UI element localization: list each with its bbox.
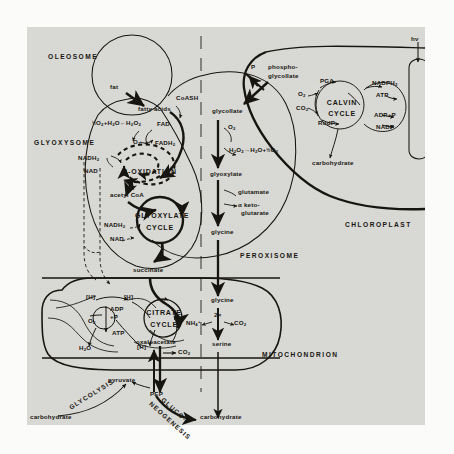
metabolite-coash: CoASH [176, 95, 198, 101]
metabolite-succinate: succinate [133, 267, 163, 273]
metabolite-reducing-equiv-1: [H] [86, 294, 95, 300]
metabolite-o2-peroxisome: O2 [228, 124, 236, 131]
arrow-o2-in-mito [90, 315, 102, 316]
metabolite-fad: FAD [157, 121, 170, 127]
metabolite-carbohydrate-chloroplast: carbohydrate [312, 160, 354, 166]
arrow-co2-out [224, 322, 234, 325]
reaction-catalase: H2O2→H2O+½O2 [229, 147, 278, 154]
metabolite-adp-p-chloroplast: ADP+P [374, 112, 396, 118]
organelle-label-mitochondrion: MITOCHONDRION [262, 352, 339, 359]
metabolite-glycollate: glycollate [212, 108, 243, 114]
metabolite-phosphoglycollate-1: phospho- [268, 64, 298, 70]
reaction-peroxide-breakdown: ½O2+H2O←H2O2 [92, 120, 141, 127]
metabolite-fat: fat [110, 84, 118, 90]
metabolite-atp-mito: ATP [112, 330, 125, 336]
metabolite-adp: ADP [110, 306, 124, 312]
metabolite-glycine-peroxisome: glycine [211, 229, 234, 235]
figure-canvas: OLEOSOME GLYOXYSOME PEROXISOME CHLOROPLA… [0, 0, 454, 454]
metabolite-nad-glyox: NAD [110, 236, 124, 242]
metabolite-nadh2-glyox: NADH2 [104, 222, 125, 229]
thylakoid-icon [409, 59, 451, 159]
glyoxysome-membrane [85, 108, 202, 268]
metabolite-nadh2-betaox: NADH2 [78, 155, 99, 162]
metabolite-carbohydrate-left: carbohydrate [30, 414, 72, 420]
metabolite-ketoglutarate-1: α keto- [238, 202, 260, 208]
metabolite-rudp: RudP [318, 120, 335, 126]
metabolite-reducing-equiv-2: [H] [124, 294, 133, 300]
organelle-label-glyoxysome: GLYOXYSOME [34, 140, 95, 147]
metabolite-o2-mito: O2 [88, 318, 96, 325]
arrow-phosphoglycollate-to-glycollate [244, 82, 268, 104]
arrow-nh4-out [202, 322, 212, 325]
organelle-label-oleosome: OLEOSOME [48, 54, 98, 61]
metabolite-nad-betaox: NAD [84, 168, 98, 174]
cycle-label-citrate-2: CYCLE [144, 321, 184, 328]
metabolite-o2-calvin: O2 [298, 91, 306, 98]
metabolite-fadh2: FADH2 [155, 140, 175, 147]
cycle-label-citrate-1: CITRATE [144, 309, 184, 316]
metabolite-phosphate-mito: +P [110, 314, 118, 320]
arrow-ketoglutarate-out [224, 204, 237, 206]
label-photon: hν [411, 36, 419, 42]
metabolite-serine: serine [212, 341, 231, 347]
metabolite-co2-glycine: CO2 [234, 320, 246, 327]
metabolite-o2-glyoxysome: O2 [133, 139, 141, 146]
metabolite-fatty-acids: fatty acids [138, 106, 171, 112]
metabolite-oxaloacetate: oxaloacetate [136, 339, 176, 345]
arrow-calvin-to-carbohydrate [330, 129, 338, 158]
metabolite-atp-chloroplast: ATP [376, 92, 389, 98]
metabolite-acetyl-coa: acetyl CoA [110, 192, 144, 198]
arrow-nadh-betaox [111, 156, 121, 163]
metabolite-pga: PGA [320, 78, 334, 84]
arrow-nad-betaox [107, 158, 113, 167]
metabolite-carbohydrate-bottom: carbohydrate [200, 414, 242, 420]
metabolite-glutamate: glutamate [238, 189, 269, 195]
beta-oxidation-spiral [118, 144, 174, 184]
cycle-label-glyoxylate-1: GLYOXYLATE [135, 212, 185, 219]
metabolite-ammonium: NH4+ [186, 320, 201, 327]
metabolite-pep: PEP [150, 391, 163, 397]
organelle-label-chloroplast: CHLOROPLAST [345, 222, 412, 229]
organelle-label-peroxisome: PEROXISOME [240, 253, 299, 260]
metabolite-co2-calvin: CO2 [296, 105, 308, 112]
arrow-glutamate-in [224, 190, 236, 196]
cycle-label-calvin-1: CALVIN [324, 99, 360, 106]
metabolite-ketoglutarate-2: glutarate [241, 210, 269, 216]
metabolite-glycine-mito: glycine [211, 297, 234, 303]
metabolite-co2-mito: CO2 [178, 349, 190, 356]
oleosome-membrane [92, 35, 172, 115]
metabolite-water-mito: H2O [79, 345, 91, 352]
cycle-label-calvin-2: CYCLE [324, 110, 360, 117]
metabolite-two-x: 2× [214, 312, 221, 318]
metabolite-phosphoglycollate-2: glycollate [268, 73, 299, 79]
metabolite-glyoxylate: glyoxylate [210, 171, 242, 177]
cycle-label-glyoxylate-2: CYCLE [135, 224, 185, 231]
metabolite-nadph: NADPH2 [372, 80, 398, 87]
cycle-label-beta-oxidation: β-OXIDATION [123, 168, 177, 175]
metabolite-phosphate: P [251, 64, 255, 70]
chloroplast-membrane [266, 46, 425, 52]
metabolite-nadp: NADP [376, 124, 394, 130]
